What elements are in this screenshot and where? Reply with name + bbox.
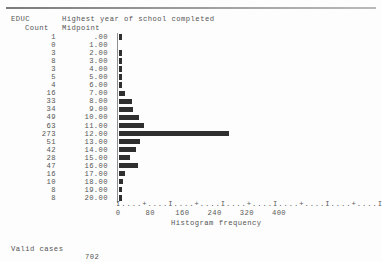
valid-cases-value: 702 [85,253,99,261]
histogram-row: 1617.00 [0,170,382,178]
row-midpoint: 3.00 [58,57,108,65]
footer-statistics: Valid cases 702 Missing cases 2 [11,237,30,262]
row-count: 28 [0,154,56,162]
row-midpoint: 11.00 [58,122,108,130]
row-midpoint: 20.00 [58,194,108,202]
histogram-rows: 1.0001.0032.0083.0034.0055.0046.00167.00… [0,33,382,202]
row-midpoint: 6.00 [58,81,108,89]
row-count: 8 [0,194,56,202]
histogram-bar [119,179,123,184]
row-midpoint: 13.00 [58,138,108,146]
row-bar-cell [119,107,133,112]
histogram-row: 4214.00 [0,146,382,154]
histogram-row: 6311.00 [0,122,382,130]
row-count: 47 [0,162,56,170]
histogram-row: 27312.00 [0,130,382,138]
histogram-bar [119,66,122,71]
row-bar-cell [119,179,123,184]
axis-tick-label: 320 [240,209,254,217]
row-bar-cell [119,99,132,104]
row-bar-cell [119,147,136,152]
row-bar-cell [119,58,122,63]
row-count: 51 [0,138,56,146]
row-midpoint: 7.00 [58,89,108,97]
row-midpoint: 15.00 [58,154,108,162]
row-bar-cell [119,91,125,96]
histogram-bar [119,187,122,192]
histogram-bar [119,139,140,144]
histogram-bar [119,74,122,79]
histogram-bar [119,155,130,160]
row-count: 34 [0,105,56,113]
row-count: 1 [0,33,56,41]
row-bar-cell [119,131,229,136]
row-count: 0 [0,41,56,49]
row-count: 5 [0,73,56,81]
row-midpoint: 5.00 [58,73,108,81]
histogram-bar [119,82,122,87]
row-count: 33 [0,97,56,105]
row-midpoint: 12.00 [58,130,108,138]
row-midpoint: 1.00 [58,41,108,49]
row-count: 8 [0,186,56,194]
valid-cases-label: Valid cases [11,245,63,253]
row-midpoint: 2.00 [58,49,108,57]
histogram-row: 46.00 [0,81,382,89]
spss-output-window: EDUC Highest year of school completed Co… [0,0,382,262]
histogram-row: 32.00 [0,49,382,57]
histogram-bar [119,58,122,63]
row-bar-cell [119,187,122,192]
histogram-row: 1018.00 [0,178,382,186]
axis-tick-label: 0 [116,209,121,217]
axis-ruler: I....+....I....+....I....+....I....+....… [116,200,382,208]
column-header-count: Count [25,24,49,32]
row-count: 16 [0,89,56,97]
row-count: 8 [0,57,56,65]
histogram-row: 34.00 [0,65,382,73]
row-count: 4 [0,81,56,89]
histogram-bar [119,123,144,128]
histogram-row: 55.00 [0,73,382,81]
histogram-row: 819.00 [0,186,382,194]
row-midpoint: 17.00 [58,170,108,178]
histogram-row: 4910.00 [0,113,382,121]
row-bar-cell [119,50,122,55]
histogram-row: 1.00 [0,33,382,41]
histogram-row: 4716.00 [0,162,382,170]
row-midpoint: 19.00 [58,186,108,194]
row-bar-cell [119,74,122,79]
row-bar-cell [119,34,122,39]
axis-tick-labels: 080160240320400 [116,209,382,219]
axis-title: Histogram frequency [171,219,262,227]
row-bar-cell [119,155,130,160]
axis-tick-label: 240 [208,209,222,217]
histogram-row: 5113.00 [0,138,382,146]
row-count: 16 [0,170,56,178]
variable-name: EDUC [11,15,30,23]
row-midpoint: 8.00 [58,97,108,105]
row-count: 63 [0,122,56,130]
histogram-bar [119,50,122,55]
histogram-bar [119,115,139,120]
histogram-row: 338.00 [0,97,382,105]
row-bar-cell [119,171,125,176]
row-bar-cell [119,66,122,71]
histogram-bar [119,107,133,112]
row-midpoint: 10.00 [58,113,108,121]
histogram-row: 2815.00 [0,154,382,162]
axis-tick-label: 160 [175,209,189,217]
row-midpoint: 16.00 [58,162,108,170]
row-count: 273 [0,130,56,138]
row-count: 3 [0,65,56,73]
row-bar-cell [119,139,140,144]
row-bar-cell [119,115,139,120]
histogram-bar [119,147,136,152]
histogram-bar [119,131,229,136]
row-bar-cell [119,123,144,128]
row-count: 3 [0,49,56,57]
row-midpoint: .00 [58,33,108,41]
histogram-bar [119,163,138,168]
histogram-bar [119,91,125,96]
row-bar-cell [119,163,138,168]
row-midpoint: 14.00 [58,146,108,154]
